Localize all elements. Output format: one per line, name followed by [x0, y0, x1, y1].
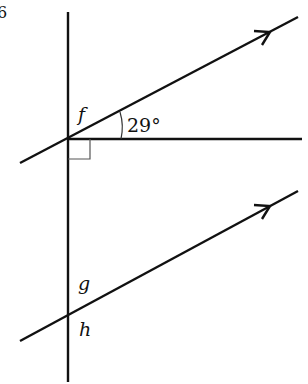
question-number: 6 — [0, 3, 7, 22]
label-f: f — [76, 103, 88, 125]
label-g: g — [78, 272, 90, 294]
geometry-diagram: 6 29° f g h — [0, 0, 308, 384]
label-h: h — [79, 318, 91, 340]
upper-parallel-line — [20, 17, 298, 163]
angle-arc — [120, 112, 122, 139]
right-angle-marker — [68, 139, 90, 159]
lower-parallel-line — [20, 191, 298, 341]
angle-label: 29° — [127, 114, 161, 136]
